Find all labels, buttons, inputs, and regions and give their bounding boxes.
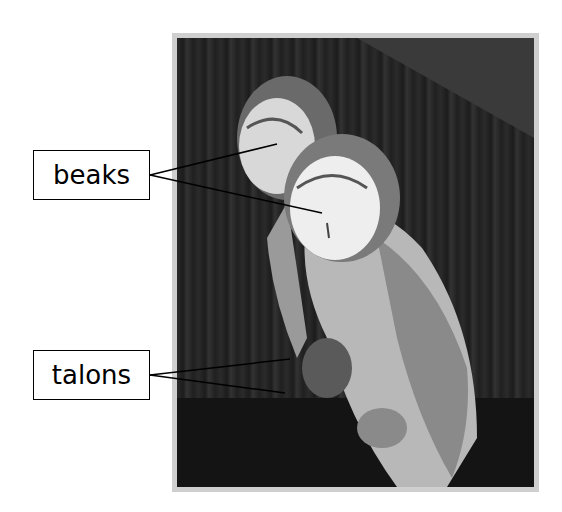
beaks-label: beaks (33, 150, 150, 200)
owl-photo (177, 38, 534, 487)
owl-illustration (177, 38, 534, 487)
photo-frame (172, 33, 539, 492)
talons-label: talons (33, 350, 150, 400)
beaks-label-text: beaks (53, 160, 130, 190)
talons-label-text: talons (52, 360, 131, 390)
